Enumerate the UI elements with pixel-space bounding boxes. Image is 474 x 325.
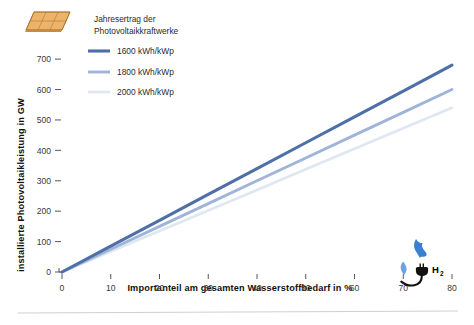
x-tick-label: 10 [106, 283, 116, 293]
x-tick-label: 80 [447, 283, 457, 293]
y-tick-label: 0 [46, 267, 51, 277]
y-tick-label: 600 [37, 85, 52, 95]
x-tick-label: 40 [252, 283, 262, 293]
y-tick-label: 500 [37, 115, 52, 125]
legend-title-line2: Photovoltaikkraftwerke [94, 26, 179, 36]
x-tick-label: 0 [60, 283, 65, 293]
x-tick-label: 30 [203, 283, 213, 293]
y-tick-label: 300 [37, 176, 52, 186]
legend-label-1600: 1600 kWh/kWp [117, 46, 174, 56]
y-tick-label: 100 [37, 237, 52, 247]
x-tick-label: 60 [350, 283, 360, 293]
hydrogen-label: H [432, 264, 439, 275]
legend-label-1800: 1800 kWh/kWp [117, 67, 174, 77]
y-tick-label: 200 [37, 206, 52, 216]
hydrogen-subscript: 2 [440, 270, 444, 277]
y-tick-label: 400 [37, 146, 52, 156]
legend-title-line1: Jahresertrag der [94, 14, 156, 24]
x-tick-label: 20 [155, 283, 165, 293]
y-tick-label: 700 [37, 54, 52, 64]
legend-label-2000: 2000 kWh/kWp [117, 87, 174, 97]
x-tick-label: 50 [301, 283, 311, 293]
chart-figure: Jahresertrag der Photovoltaikkraftwerke … [0, 0, 474, 325]
y-axis-title: installierte Photovoltaikleistung in GW [16, 98, 26, 272]
